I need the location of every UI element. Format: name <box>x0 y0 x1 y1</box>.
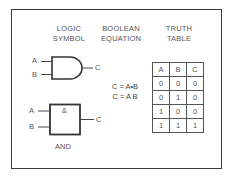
cell-c: 0 <box>187 91 204 105</box>
cell-b: 0 <box>170 77 187 91</box>
cell-c: 0 <box>187 105 204 119</box>
cell-a: 0 <box>153 77 170 91</box>
truth-table-row: 0 1 0 <box>153 91 204 105</box>
iec-input-b-label: B <box>29 123 34 131</box>
header-a: A <box>153 63 170 77</box>
cell-c: 1 <box>187 119 204 133</box>
cell-a: 0 <box>153 91 170 105</box>
truth-table-row: 1 1 1 <box>153 119 204 133</box>
truth-table-header-row: A B C <box>153 63 204 77</box>
and-gate-ansi-icon <box>41 57 93 79</box>
header-c: C <box>187 63 204 77</box>
iec-input-a-label: A <box>29 107 34 115</box>
iec-output-c-label: C <box>96 116 101 124</box>
cell-b: 1 <box>170 119 187 133</box>
cell-c: 0 <box>187 77 204 91</box>
equation-juxtaposition-form: C = A B <box>100 92 150 102</box>
cell-b: 0 <box>170 105 187 119</box>
truth-table-row: 1 0 0 <box>153 105 204 119</box>
ansi-input-b-label: B <box>32 71 37 79</box>
cell-a: 1 <box>153 119 170 133</box>
ansi-output-c-label: C <box>95 64 100 72</box>
gate-caption-and: AND <box>55 143 71 151</box>
cell-b: 1 <box>170 91 187 105</box>
boolean-equations: C = A•B C = A B <box>100 82 150 102</box>
cell-a: 1 <box>153 105 170 119</box>
ansi-input-a-label: A <box>32 57 37 65</box>
header-b: B <box>170 63 187 77</box>
truth-table-row: 0 0 0 <box>153 77 204 91</box>
truth-table: A B C 0 0 0 0 1 0 1 0 0 1 1 1 <box>152 62 204 133</box>
equation-dot-form: C = A•B <box>100 82 150 92</box>
iec-ampersand-symbol: & <box>62 107 67 115</box>
